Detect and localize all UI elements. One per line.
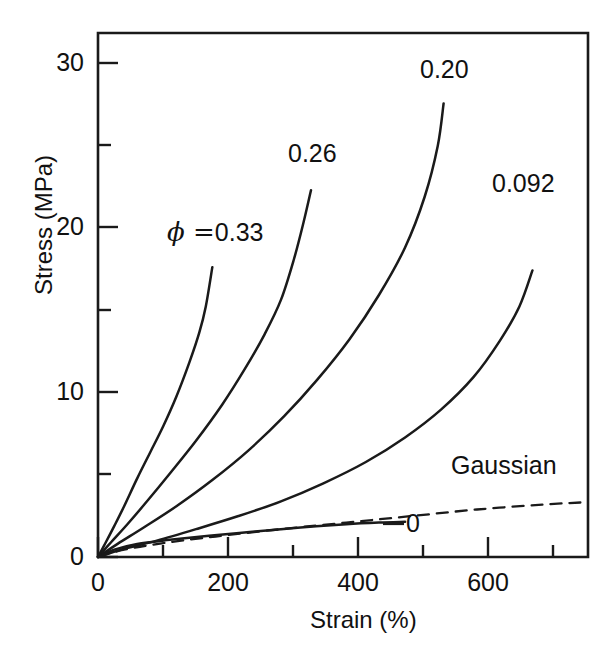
xtick-label-600: 600 <box>453 570 523 595</box>
ytick-label-30: 30 <box>38 50 84 75</box>
xtick-label-400: 400 <box>323 570 393 595</box>
ytick-label-10: 10 <box>38 379 84 404</box>
curve-label-phi-0: 0 <box>406 511 420 536</box>
curve-label-phi-020: 0.20 <box>420 57 469 82</box>
ytick-label-0: 0 <box>38 544 84 569</box>
curve-phi-0-33 <box>98 267 212 557</box>
curve-label-gaussian: Gaussian <box>451 453 557 478</box>
xtick-label-200: 200 <box>193 570 263 595</box>
curve-label-phi-0092: 0.092 <box>492 171 555 196</box>
curve-phi-0-20 <box>98 103 444 557</box>
curve-label-phi-026: 0.26 <box>288 141 337 166</box>
phi-symbol: ϕ = <box>167 217 215 247</box>
curve-label-phi-033-value: 0.33 <box>215 218 264 246</box>
x-axis-title: Strain (%) <box>310 608 417 632</box>
xtick-label-0: 0 <box>78 570 118 595</box>
plot-area <box>0 0 613 650</box>
y-axis-title: Stress (MPa) <box>32 155 56 295</box>
stress-strain-figure: 30 20 10 0 0 200 400 600 Stress (MPa) St… <box>0 0 613 650</box>
y-axis-ticks <box>98 63 118 557</box>
curve-label-phi-033: ϕ =0.33 <box>167 219 263 245</box>
